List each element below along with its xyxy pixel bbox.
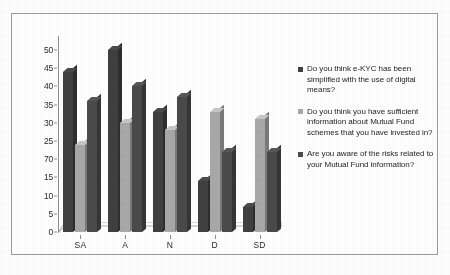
bar-front-face: [153, 112, 163, 232]
bar-side-face: [187, 90, 191, 232]
bar-front-face: [120, 123, 130, 232]
bar: [198, 181, 208, 232]
legend-item-label: Do you think e-KYC has been simplified w…: [307, 64, 444, 96]
x-axis-tick-mark: [80, 235, 81, 239]
x-axis-tick-label: D: [192, 240, 237, 250]
chart-legend: Do you think e-KYC has been simplified w…: [298, 64, 444, 181]
legend-item[interactable]: Do you think you have sufficient informa…: [298, 107, 444, 139]
bar: [267, 152, 277, 232]
bar-group: [58, 36, 103, 232]
y-axis-tick-label: 30: [44, 118, 53, 128]
bar-front-face: [267, 152, 277, 232]
bar-group: [237, 36, 282, 232]
bar-side-face: [277, 145, 281, 232]
x-axis-tick-label: SD: [237, 240, 282, 250]
bar-front-face: [177, 97, 187, 232]
bar-front-face: [63, 72, 73, 232]
bar-front-face: [243, 207, 253, 232]
y-axis-tick-label: 0: [48, 227, 53, 237]
bar: [165, 130, 175, 232]
y-axis-tick-label: 40: [44, 81, 53, 91]
legend-item[interactable]: Are you aware of the risks related to yo…: [298, 149, 444, 170]
bar-front-face: [87, 101, 97, 232]
legend-item-label: Do you think you have sufficient informa…: [307, 107, 444, 139]
bar-front-face: [108, 50, 118, 232]
y-axis-tick-mark: [54, 159, 57, 160]
bar: [63, 72, 73, 232]
legend-swatch-icon: [298, 152, 303, 157]
x-axis-tick-mark: [170, 235, 171, 239]
bar-front-face: [222, 152, 232, 232]
x-axis-tick-mark: [125, 235, 126, 239]
bar-group: [192, 36, 237, 232]
x-axis-labels: SAANDSD: [58, 240, 282, 250]
y-axis-tick-mark: [54, 104, 57, 105]
chart-frame: 05101570253035404550 SAANDSD Do you thin…: [11, 13, 438, 255]
y-axis-tick-label: 10: [44, 191, 53, 201]
bar-front-face: [255, 119, 265, 232]
bar: [177, 97, 187, 232]
bar-front-face: [165, 130, 175, 232]
plot-area: 05101570253035404550: [58, 36, 282, 232]
bar: [222, 152, 232, 232]
bar-front-face: [75, 145, 85, 232]
y-axis-tick-mark: [54, 86, 57, 87]
y-axis-tick-mark: [54, 195, 57, 196]
x-axis-tick-label: SA: [58, 240, 103, 250]
y-axis-tick-label: 25: [44, 136, 53, 146]
bar-group: [103, 36, 148, 232]
y-axis-tick-label: 35: [44, 100, 53, 110]
y-axis-tick-label: 70: [44, 154, 53, 164]
x-axis-tick-label: N: [148, 240, 193, 250]
y-axis-tick-mark: [54, 232, 57, 233]
y-axis-tick-mark: [54, 50, 57, 51]
y-axis-tick-mark: [54, 68, 57, 69]
x-axis-tick-mark: [260, 235, 261, 239]
bar-front-face: [198, 181, 208, 232]
bar-group: [148, 36, 193, 232]
bar-front-face: [210, 112, 220, 232]
bar: [210, 112, 220, 232]
bar-groups: [58, 36, 282, 232]
bar-side-face: [142, 79, 146, 232]
bar: [255, 119, 265, 232]
bar-front-face: [132, 86, 142, 232]
y-axis-tick-label: 50: [44, 45, 53, 55]
bar: [153, 112, 163, 232]
bar-side-face: [232, 145, 236, 232]
y-axis-tick-label: 5: [48, 209, 53, 219]
bar: [108, 50, 118, 232]
x-axis-tick-label: A: [103, 240, 148, 250]
y-axis-tick-mark: [54, 177, 57, 178]
legend-item[interactable]: Do you think e-KYC has been simplified w…: [298, 64, 444, 96]
y-axis-tick-label: 45: [44, 63, 53, 73]
y-axis-tick-label: 15: [44, 172, 53, 182]
bar: [75, 145, 85, 232]
y-axis-tick-mark: [54, 141, 57, 142]
legend-swatch-icon: [298, 109, 303, 114]
bar-side-face: [97, 94, 101, 232]
bar: [132, 86, 142, 232]
bar: [87, 101, 97, 232]
bar: [243, 207, 253, 232]
y-axis-tick-mark: [54, 213, 57, 214]
figure-caption: [0, 271, 450, 275]
legend-swatch-icon: [298, 67, 303, 72]
x-axis-tick-mark: [215, 235, 216, 239]
y-axis-tick-mark: [54, 122, 57, 123]
legend-item-label: Are you aware of the risks related to yo…: [307, 149, 444, 170]
bar: [120, 123, 130, 232]
